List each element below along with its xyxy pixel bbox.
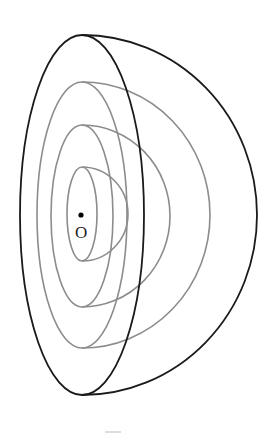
center-point	[78, 212, 83, 217]
shell-2-back-arc	[82, 125, 170, 307]
shell-1-back-arc	[82, 82, 210, 348]
center-label: O	[75, 223, 87, 242]
shell-3-back-arc	[82, 167, 128, 261]
inner-shells	[37, 82, 210, 348]
outer-shell	[20, 35, 257, 395]
hemisphere-diagram: O	[0, 0, 279, 433]
